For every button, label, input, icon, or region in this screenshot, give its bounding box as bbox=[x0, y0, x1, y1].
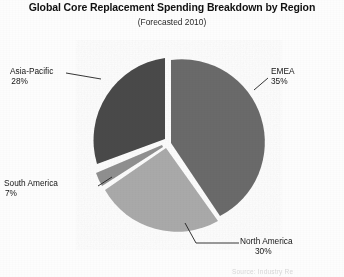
leader-line-emea bbox=[254, 78, 268, 90]
slice-label-asia-pacific-value: 28% bbox=[10, 76, 53, 86]
leader-line-asia-pacific bbox=[66, 73, 101, 79]
slice-label-emea-name: EMEA bbox=[271, 66, 295, 76]
slice-label-south-america-value: 7% bbox=[4, 188, 58, 198]
pie-chart-figure: Global Core Replacement Spending Breakdo… bbox=[0, 0, 344, 277]
pie-slice-asia-pacific[interactable] bbox=[94, 58, 165, 164]
chart-footnote: Source: Industry Re bbox=[232, 268, 293, 275]
slice-label-asia-pacific: Asia-Pacific 28% bbox=[10, 66, 53, 86]
slice-label-asia-pacific-name: Asia-Pacific bbox=[10, 66, 53, 76]
slice-label-emea-value: 35% bbox=[271, 76, 297, 86]
slice-label-north-america: North America 30% bbox=[240, 236, 293, 256]
slice-label-north-america-name: North America bbox=[240, 236, 293, 246]
slice-label-emea: EMEA 35% bbox=[271, 66, 297, 86]
slice-label-north-america-value: 30% bbox=[240, 246, 293, 256]
slice-label-south-america: South America 7% bbox=[4, 178, 58, 198]
slice-label-south-america-name: South America bbox=[4, 178, 58, 188]
